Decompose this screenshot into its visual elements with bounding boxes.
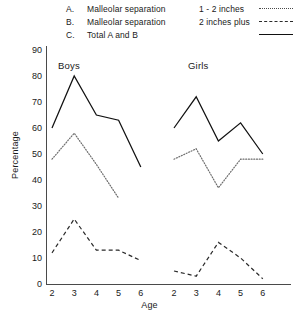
- series-layer: [0, 0, 299, 316]
- series-line: [52, 219, 141, 261]
- series-line: [174, 242, 263, 278]
- chart-figure: A. Malleolar separation 1 - 2 inches B. …: [0, 0, 299, 316]
- series-line: [174, 149, 263, 188]
- series-line: [52, 133, 119, 198]
- series-line: [174, 97, 263, 154]
- series-line: [52, 76, 141, 167]
